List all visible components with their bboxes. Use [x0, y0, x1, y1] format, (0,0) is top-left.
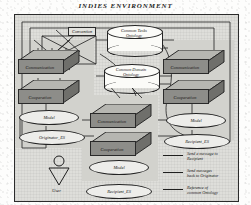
- user-icon: [46, 155, 72, 187]
- legend-item-send-back: Send messages back to Originator: [163, 169, 218, 179]
- legend-text: Reference of common Ontology: [187, 186, 218, 196]
- box-label: Communication: [18, 61, 62, 74]
- box-label: Communication: [163, 61, 207, 74]
- legend-item-ontology-reference: Reference of common Ontology: [163, 186, 218, 196]
- common-domain-ontology: Common Domain Ontology: [104, 64, 158, 94]
- box-label: Cooperation: [163, 91, 207, 104]
- common-tasks-ontology: Common Tasks Ontology: [107, 25, 161, 57]
- center-model-ellipse: Model: [89, 160, 149, 175]
- originator-communication-box: Communication: [18, 50, 80, 74]
- recipient-model-ellipse: Model: [166, 113, 226, 128]
- user-label: User: [52, 188, 61, 193]
- ontology-label-line2: Ontology: [104, 73, 158, 78]
- ontology-label: Common Domain Ontology: [104, 68, 158, 78]
- box-label: Cooperation: [18, 91, 62, 104]
- legend-text-line2: Recipient: [187, 157, 218, 162]
- indies-environment-diagram: INDIES ENVIRONMENT: [0, 0, 251, 205]
- center-expert-system-ellipse: Recipient_ES: [86, 184, 152, 199]
- originator-model-ellipse: Model: [19, 110, 79, 125]
- convention-label: Convention: [68, 27, 96, 36]
- ontology-label-line2: Ontology: [107, 34, 161, 39]
- originator-cooperation-box: Cooperation: [18, 80, 80, 104]
- legend-item-send-message: Send a message to Recipient: [163, 152, 218, 162]
- legend-text: Send a message to Recipient: [187, 152, 218, 162]
- cylinder-bottom: [104, 81, 160, 94]
- legend-line: [163, 172, 183, 173]
- user-figure: [46, 155, 72, 187]
- legend-line: [163, 155, 183, 156]
- box-label: Communication: [90, 115, 134, 128]
- recipient-communication-box: Communication: [163, 50, 225, 74]
- recipient-cooperation-box: Cooperation: [163, 80, 225, 104]
- originator-expert-system-ellipse: Originator_ES: [19, 130, 85, 145]
- box-label: Cooperation: [90, 143, 134, 156]
- center-communication-box: Communication: [90, 104, 152, 128]
- legend-text-line2: common Ontology: [187, 191, 218, 196]
- recipient-expert-system-ellipse: Recipient_ES: [164, 134, 230, 149]
- ontology-label: Common Tasks Ontology: [107, 29, 161, 39]
- center-cooperation-box: Cooperation: [90, 132, 152, 156]
- cylinder-bottom: [107, 44, 163, 57]
- legend-text-line2: back to Originator: [187, 174, 218, 179]
- legend-line: [163, 189, 183, 190]
- legend-text: Send messages back to Originator: [187, 169, 218, 179]
